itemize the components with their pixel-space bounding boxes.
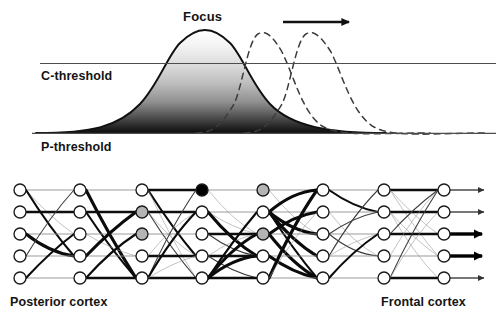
network-node[interactable] <box>196 272 208 284</box>
network-node[interactable] <box>196 250 208 262</box>
network-node[interactable] <box>378 272 390 284</box>
network-node[interactable] <box>438 184 450 196</box>
network-node[interactable] <box>317 272 329 284</box>
network-node[interactable] <box>257 206 269 218</box>
network-node[interactable] <box>136 272 148 284</box>
network-node[interactable] <box>136 250 148 262</box>
network-node[interactable] <box>438 250 450 262</box>
network-node[interactable] <box>378 228 390 240</box>
network-node[interactable] <box>196 228 208 240</box>
network-node[interactable] <box>438 272 450 284</box>
network-node-partial[interactable] <box>257 184 269 196</box>
network-node[interactable] <box>14 206 26 218</box>
network-node[interactable] <box>74 250 86 262</box>
network-node[interactable] <box>438 206 450 218</box>
p-threshold-label: P-threshold <box>41 140 112 154</box>
network-node[interactable] <box>257 272 269 284</box>
network-node[interactable] <box>378 250 390 262</box>
network-node-partial[interactable] <box>136 228 148 240</box>
posterior-cortex-label: Posterior cortex <box>10 295 107 309</box>
network-node[interactable] <box>317 206 329 218</box>
network-node[interactable] <box>74 184 86 196</box>
network-node[interactable] <box>136 184 148 196</box>
network-node[interactable] <box>196 206 208 218</box>
network-node[interactable] <box>317 184 329 196</box>
focus-label: Focus <box>183 9 222 24</box>
network-node[interactable] <box>257 250 269 262</box>
network-node[interactable] <box>378 206 390 218</box>
network-node[interactable] <box>317 250 329 262</box>
c-threshold-label: C-threshold <box>41 69 112 83</box>
network-node[interactable] <box>14 228 26 240</box>
network-node[interactable] <box>74 272 86 284</box>
focus-network-figure <box>0 0 501 321</box>
network-node[interactable] <box>14 272 26 284</box>
network-node[interactable] <box>14 184 26 196</box>
network-node[interactable] <box>14 250 26 262</box>
network-node[interactable] <box>317 228 329 240</box>
figure-background <box>0 0 501 321</box>
frontal-cortex-label: Frontal cortex <box>381 295 466 309</box>
network-node-active[interactable] <box>196 184 208 196</box>
network-node-partial[interactable] <box>136 206 148 218</box>
network-node[interactable] <box>378 184 390 196</box>
network-node[interactable] <box>74 228 86 240</box>
network-node[interactable] <box>74 206 86 218</box>
network-node-partial[interactable] <box>257 228 269 240</box>
network-node[interactable] <box>438 228 450 240</box>
